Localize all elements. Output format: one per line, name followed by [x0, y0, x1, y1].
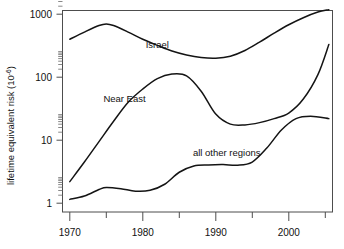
series-label-near-east: Near East: [103, 93, 146, 104]
y-axis-title-text: lifetime equivalent risk (10: [5, 75, 16, 185]
x-axis-ticks: [70, 212, 325, 221]
series-label-israel: Israel: [146, 39, 169, 50]
line-chart-canvas: 1000 100 10 1 lifetime equivalent risk (…: [0, 0, 344, 249]
y-axis-minor-ticks: [58, 2, 62, 196]
y-axis-major-ticks: [57, 14, 63, 203]
x-tick-label-1990: 1990: [205, 227, 228, 238]
chart-figure: 1000 100 10 1 lifetime equivalent risk (…: [0, 0, 344, 249]
y-tick-label-100: 100: [35, 72, 52, 83]
y-tick-label-1: 1: [46, 198, 52, 209]
x-tick-label-1970: 1970: [59, 227, 82, 238]
y-tick-label-10: 10: [41, 135, 53, 146]
x-tick-label-2000: 2000: [278, 227, 301, 238]
series-line-israel: [70, 10, 329, 59]
y-tick-label-1000: 1000: [30, 9, 53, 20]
series-line-near-east: [70, 45, 329, 182]
y-axis-title: lifetime equivalent risk (10-6): [5, 66, 16, 185]
x-tick-label-1980: 1980: [132, 227, 155, 238]
series-label-all-other-regions: all other regions: [193, 147, 261, 158]
y-axis-title-suffix: ): [5, 66, 16, 69]
